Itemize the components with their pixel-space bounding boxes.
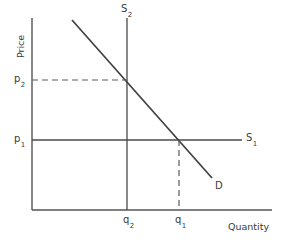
curve-label-s1-base: S bbox=[246, 132, 252, 143]
x-tick-label-q2-subscript: 2 bbox=[130, 222, 134, 230]
curve-label-s2: S2 bbox=[121, 4, 132, 17]
y-tick-label-p2-base: p bbox=[14, 73, 20, 84]
y-tick-label-p2: p2 bbox=[14, 74, 25, 87]
curve-label-s1: S1 bbox=[246, 133, 257, 146]
y-axis-title: Price bbox=[16, 35, 26, 58]
curve-label-s2-base: S bbox=[121, 3, 127, 14]
x-tick-label-q1-base: q bbox=[175, 214, 181, 225]
y-tick-label-p1: p1 bbox=[14, 134, 25, 147]
x-tick-label-q2-base: q bbox=[123, 214, 129, 225]
supply-demand-figure: Price Quantity p2 p1 q2 q1 S2 S1 D bbox=[0, 0, 283, 243]
plot-canvas bbox=[0, 0, 283, 243]
curve-label-s2-subscript: 2 bbox=[128, 11, 132, 19]
curve-label-demand: D bbox=[215, 181, 223, 191]
y-tick-label-p1-subscript: 1 bbox=[21, 141, 25, 149]
x-tick-label-q1: q1 bbox=[175, 215, 186, 228]
x-tick-label-q1-subscript: 1 bbox=[182, 222, 186, 230]
x-tick-label-q2: q2 bbox=[123, 215, 134, 228]
y-tick-label-p2-subscript: 2 bbox=[21, 81, 25, 89]
curve-label-s1-subscript: 1 bbox=[253, 140, 257, 148]
demand-curve-line bbox=[72, 20, 212, 178]
y-tick-label-p1-base: p bbox=[14, 133, 20, 144]
x-axis-title: Quantity bbox=[228, 222, 269, 232]
